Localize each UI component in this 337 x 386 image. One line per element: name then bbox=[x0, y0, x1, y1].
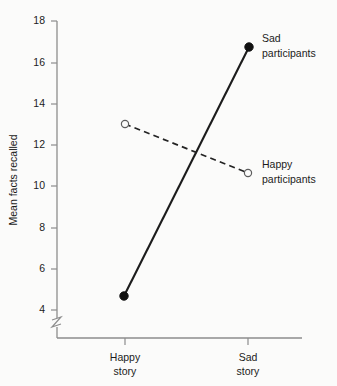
x-label-sad-story-line1: Sad bbox=[239, 351, 258, 363]
y-tick-label-8: 8 bbox=[39, 221, 45, 233]
x-label-sad-story-line2: story bbox=[237, 365, 261, 377]
series-happy-participants bbox=[121, 120, 251, 176]
y-tick-label-4: 4 bbox=[39, 303, 45, 315]
line-chart: 18 16 14 12 10 8 6 4 Mean facts recalled… bbox=[0, 0, 337, 386]
y-axis-title: Mean facts recalled bbox=[7, 134, 19, 225]
series-label-happy-participants: Happy participants bbox=[262, 158, 316, 185]
datapoint-sad-participants-happy-story bbox=[120, 292, 128, 300]
series-label-happy-line1: Happy bbox=[262, 158, 293, 170]
x-label-happy-story-line1: Happy bbox=[110, 351, 141, 363]
y-axis-ticks bbox=[51, 21, 57, 310]
series-label-sad-line2: participants bbox=[262, 47, 316, 59]
y-tick-label-12: 12 bbox=[33, 138, 45, 150]
series-sad-participants bbox=[120, 43, 253, 300]
series-label-happy-line2: participants bbox=[262, 173, 316, 185]
series-sad-participants-line bbox=[124, 47, 249, 296]
y-axis-tick-labels: 18 16 14 12 10 8 6 4 bbox=[33, 14, 45, 315]
y-tick-label-14: 14 bbox=[33, 97, 45, 109]
series-label-sad-participants: Sad participants bbox=[262, 32, 316, 59]
x-label-happy-story-line2: story bbox=[114, 365, 138, 377]
y-tick-label-16: 16 bbox=[33, 56, 45, 68]
series-label-sad-line1: Sad bbox=[262, 32, 281, 44]
datapoint-sad-participants-sad-story bbox=[245, 43, 253, 51]
datapoint-happy-participants-happy-story bbox=[121, 120, 128, 127]
x-axis-ticks bbox=[125, 338, 248, 345]
datapoint-happy-participants-sad-story bbox=[244, 169, 251, 176]
axis-break-icon bbox=[52, 317, 61, 327]
x-axis-category-labels: Happy story Sad story bbox=[110, 351, 260, 377]
y-tick-label-10: 10 bbox=[33, 179, 45, 191]
y-tick-label-18: 18 bbox=[33, 14, 45, 26]
chart-container: 18 16 14 12 10 8 6 4 Mean facts recalled… bbox=[0, 0, 337, 386]
y-tick-label-6: 6 bbox=[39, 262, 45, 274]
series-happy-participants-line bbox=[125, 124, 248, 173]
